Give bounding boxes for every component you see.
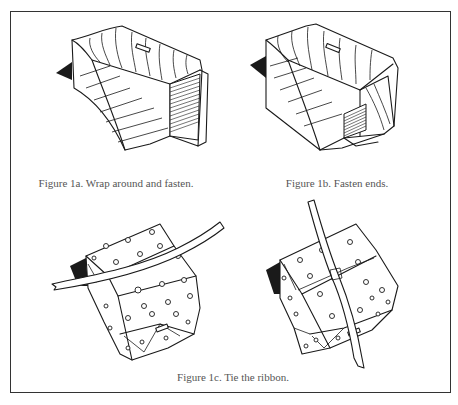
caption-figure-1a: Figure 1a. Wrap around and fasten.	[39, 177, 194, 189]
box-corner-shadow	[56, 62, 72, 80]
caption-figure-1b: Figure 1b. Fasten ends.	[286, 177, 388, 189]
illustration-1c-ribbon-horizontal	[48, 218, 228, 368]
box-corner-shadow	[250, 56, 266, 78]
hatched-end-panel	[170, 74, 200, 140]
illustration-1c-ribbon-vertical	[260, 198, 410, 373]
illustration-1a-wrap-around	[50, 18, 220, 168]
caption-figure-1c: Figure 1c. Tie the ribbon.	[177, 371, 289, 383]
wrapped-box	[86, 224, 200, 360]
wrapping-paper-body	[266, 24, 398, 150]
illustration-1b-fasten-ends	[248, 18, 408, 168]
